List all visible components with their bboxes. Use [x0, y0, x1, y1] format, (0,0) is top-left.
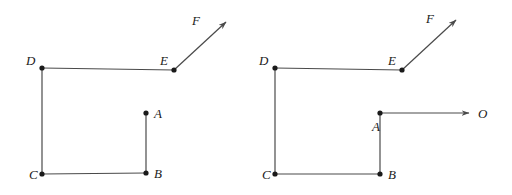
right-point-C	[272, 171, 277, 176]
right-point-D	[272, 65, 277, 70]
right-point-E	[399, 67, 404, 72]
left-point-E	[171, 67, 176, 72]
left-segment-B-C	[42, 173, 146, 174]
left-point-A	[143, 110, 148, 115]
right-ray-E-F	[402, 20, 456, 70]
left-ray-E-F	[174, 22, 226, 70]
right-diagram: A B C D E F O	[258, 11, 488, 182]
geometry-figure: A B C D E F A B C	[0, 0, 512, 195]
figure-canvas: A B C D E F A B C	[0, 0, 512, 195]
right-label-E: E	[387, 53, 396, 68]
left-label-F: F	[191, 13, 201, 28]
right-label-F: F	[425, 11, 435, 26]
right-label-D: D	[258, 53, 269, 68]
right-segment-D-E	[275, 68, 402, 70]
right-label-C: C	[262, 167, 271, 182]
left-label-B: B	[154, 166, 162, 181]
left-point-C	[39, 171, 44, 176]
left-point-B	[143, 170, 148, 175]
left-point-D	[39, 65, 44, 70]
right-label-A: A	[371, 119, 380, 134]
left-label-C: C	[29, 167, 38, 182]
right-point-B	[377, 171, 382, 176]
right-label-O: O	[478, 106, 488, 121]
left-diagram: A B C D E F	[25, 13, 226, 182]
left-label-A: A	[153, 106, 162, 121]
left-label-D: D	[25, 53, 36, 68]
right-label-B: B	[388, 167, 396, 182]
left-segment-D-E	[42, 68, 174, 70]
right-point-A	[377, 110, 382, 115]
left-label-E: E	[159, 53, 168, 68]
